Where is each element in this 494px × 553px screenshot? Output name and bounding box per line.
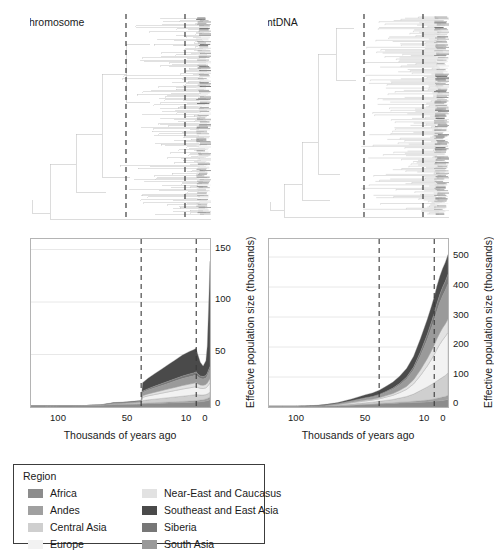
- ytick-m-400: 400: [453, 279, 469, 290]
- yaxis-label-mtdna: Effective population size (thousands): [482, 237, 494, 408]
- chart-panel-y-chromosome: [30, 238, 211, 408]
- legend-label-andes: Andes: [50, 505, 80, 516]
- legend-swatch-europe: [28, 540, 43, 549]
- ytick-y-50: 50: [215, 345, 226, 356]
- chart-panel-mtdna: [268, 238, 449, 408]
- ytick-y-0: 0: [215, 397, 220, 408]
- legend-swatch-central-asia: [28, 523, 43, 532]
- legend-swatch-near-east-and-caucasus: [142, 489, 157, 498]
- legend-label-europe: Europe: [50, 539, 84, 550]
- xtick-m-100: 100: [288, 412, 304, 423]
- skyline-plot-mtdna: [269, 239, 448, 407]
- legend-item-south-asia[interactable]: South Asia: [142, 536, 281, 553]
- ytick-m-0: 0: [453, 397, 458, 408]
- skyline-plot-y-chromosome: [31, 239, 210, 407]
- xtick-y-100: 100: [50, 412, 66, 423]
- xtick-y-50: 50: [122, 412, 133, 423]
- legend-item-andes[interactable]: Andes: [28, 502, 107, 519]
- xaxis-label-y-chromosome: Thousands of years ago: [64, 429, 177, 441]
- tree-panel-mtdna: mtDNA: [268, 14, 449, 220]
- gridlines-y-chromosome: [31, 250, 210, 355]
- stacked-areas-mtdna: [269, 255, 448, 407]
- legend-swatch-andes: [28, 506, 43, 515]
- legend-swatch-africa: [28, 489, 43, 498]
- phylogenetic-tree-mtdna: [268, 14, 449, 220]
- legend-swatch-south-asia: [142, 540, 157, 549]
- phylogenetic-tree-y-chromosome: [30, 14, 211, 220]
- legend-label-africa: Africa: [50, 488, 77, 499]
- xtick-y-0: 0: [202, 412, 207, 423]
- legend-item-siberia[interactable]: Siberia: [142, 519, 281, 536]
- xtick-y-10: 10: [181, 412, 192, 423]
- legend-label-south-asia: South Asia: [164, 539, 214, 550]
- legend-item-africa[interactable]: Africa: [28, 485, 107, 502]
- legend-title: Region: [23, 470, 56, 482]
- legend-swatch-southeast-and-east-asia: [142, 506, 157, 515]
- legend-label-siberia: Siberia: [164, 522, 197, 533]
- panel-title-y-chromosome: Y chromosome: [30, 16, 84, 28]
- ytick-m-200: 200: [453, 338, 469, 349]
- legend-swatch-siberia: [142, 523, 157, 532]
- xaxis-label-mtdna: Thousands of years ago: [302, 429, 415, 441]
- ytick-m-100: 100: [453, 368, 469, 379]
- legend-label-central-asia: Central Asia: [50, 522, 107, 533]
- xtick-m-50: 50: [360, 412, 371, 423]
- ytick-y-150: 150: [215, 242, 231, 253]
- yaxis-label-y-chromosome: Effective population size (thousands): [244, 237, 256, 408]
- xtick-m-10: 10: [419, 412, 430, 423]
- legend-label-near-east-and-caucasus: Near-East and Caucasus: [164, 488, 281, 499]
- xtick-m-0: 0: [440, 412, 445, 423]
- panel-title-mtdna: mtDNA: [268, 16, 298, 28]
- legend-item-europe[interactable]: Europe: [28, 536, 107, 553]
- ytick-m-500: 500: [453, 249, 469, 260]
- legend-item-central-asia[interactable]: Central Asia: [28, 519, 107, 536]
- ytick-m-300: 300: [453, 309, 469, 320]
- legend-column-2: Near-East and Caucasus Southeast and Eas…: [142, 485, 281, 553]
- ytick-y-100: 100: [215, 293, 231, 304]
- stacked-areas-y-chromosome: [31, 261, 210, 407]
- tree-panel-y-chromosome: Y chromosome: [30, 14, 211, 220]
- legend-item-near-east-and-caucasus[interactable]: Near-East and Caucasus: [142, 485, 281, 502]
- legend-item-southeast-and-east-asia[interactable]: Southeast and East Asia: [142, 502, 281, 519]
- legend-box: Region Africa Andes Central Asia Europe: [13, 464, 265, 544]
- legend-label-southeast-and-east-asia: Southeast and East Asia: [164, 505, 278, 516]
- legend-column-1: Africa Andes Central Asia Europe: [28, 485, 107, 553]
